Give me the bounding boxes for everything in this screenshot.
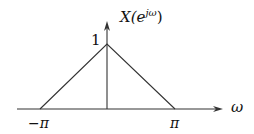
right-tick-label: π [170,116,179,130]
y-axis-label-prefix: X(e [120,8,145,26]
y-axis-label-exponent: jω [145,7,156,18]
x-axis-label: ω [231,100,243,115]
y-axis-label: X(ejω) [120,8,163,25]
peak-value-label: 1 [91,33,101,48]
y-axis-label-suffix: ) [157,8,163,26]
left-tick-label: −π [28,116,49,130]
